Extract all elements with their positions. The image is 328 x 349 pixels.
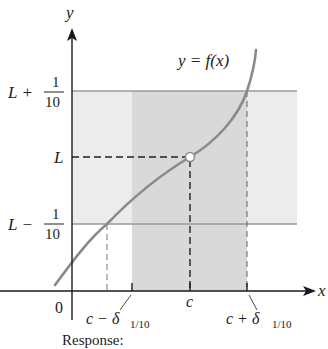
c-minus-delta-subscript: 1/10 [130, 318, 150, 330]
origin-label: 0 [55, 299, 63, 316]
lower-level-den: 10 [45, 226, 60, 242]
leader-left [120, 295, 131, 310]
y-axis-label: y [64, 3, 74, 22]
response-label: Response: [62, 332, 124, 349]
leader-right [249, 295, 257, 310]
c-minus-delta-label: c − δ [86, 310, 120, 327]
upper-level-prefix: L + [7, 83, 33, 102]
middle-level-label: L [53, 148, 63, 167]
c-label: c [186, 293, 193, 310]
hole-marker [186, 153, 195, 162]
x-axis-label: x [317, 281, 326, 300]
limit-diagram: y x 0 y = f(x) L + 1 10 L L − 1 10 c c −… [0, 0, 328, 349]
c-plus-delta-subscript: 1/10 [272, 318, 292, 330]
curve-label: y = f(x) [176, 51, 229, 70]
upper-level-den: 10 [45, 94, 60, 110]
upper-level-num: 1 [52, 74, 60, 90]
lower-level-num: 1 [52, 206, 60, 222]
lower-level-prefix: L − [7, 215, 33, 234]
c-plus-delta-label: c + δ [226, 310, 260, 327]
